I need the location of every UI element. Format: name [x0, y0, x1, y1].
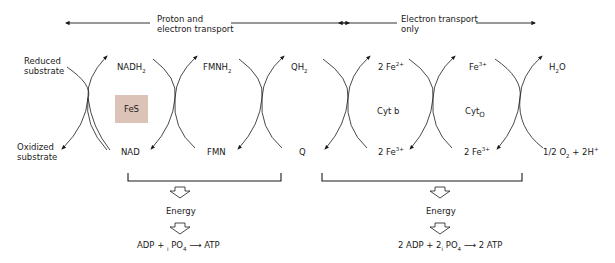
carrier-fes-box: FeS: [115, 95, 148, 123]
span-label-proton-electron: Proton and electron transport: [157, 14, 234, 34]
node-nad: NAD: [121, 147, 140, 157]
span-label-electron-only: Electron transport only: [401, 14, 478, 34]
energy-label-right: Energy: [426, 206, 456, 216]
equation-left: ADP + i PO4 ⟶ ATP: [137, 240, 220, 250]
node-2fe3-bottom-2: 2 Fe3+: [464, 147, 490, 157]
node-2fe3-bottom-1: 2 Fe3+: [378, 147, 404, 157]
node-nadh2: NADH2: [117, 62, 146, 72]
carrier-cyt-b: Cyt b: [377, 106, 399, 116]
hollow-down-arrow-icon: [430, 187, 450, 198]
node-qh2: QH2: [291, 62, 308, 72]
node-fmn: FMN: [207, 147, 226, 157]
bracket-right: [322, 173, 522, 181]
energy-label-left: Energy: [166, 206, 196, 216]
hollow-down-arrow-icon: [430, 223, 450, 234]
hollow-down-arrow-icon: [170, 223, 190, 234]
node-h2o: H2O: [549, 62, 566, 72]
hollow-down-arrow-icon: [170, 187, 190, 198]
bracket-left: [128, 173, 281, 181]
node-oxidized-substrate: Oxidized substrate: [17, 142, 57, 162]
node-2fe2-top: 2 Fe2+: [378, 62, 404, 72]
node-half-o2: 1/2 O2 + 2H+: [543, 147, 599, 157]
equation-right: 2 ADP + 2i PO4 ⟶ 2 ATP: [398, 240, 502, 250]
node-fe3-top: Fe3+: [469, 62, 487, 72]
node-reduced-substrate: Reduced substrate: [24, 56, 64, 76]
carrier-cyt-o: CytO: [465, 106, 485, 116]
node-fmnh2: FMNH2: [203, 62, 231, 72]
node-q: Q: [299, 147, 306, 157]
diagram-graphics: [0, 0, 615, 263]
